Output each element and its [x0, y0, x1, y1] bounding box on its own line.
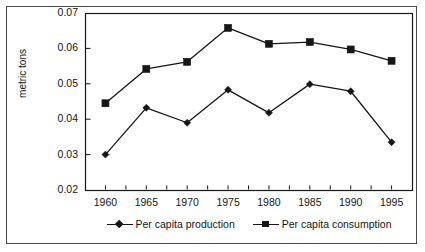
screenshot-root: metric tons 0.020.030.040.050.060.07 196…	[0, 0, 425, 252]
line-chart: metric tons 0.020.030.040.050.060.07 196…	[0, 0, 425, 252]
data-series-group	[102, 24, 395, 158]
legend-item-consumption[interactable]: Per capita consumption	[253, 218, 392, 230]
chart-legend: Per capita production Per capita consump…	[85, 218, 413, 230]
y-axis-ticks	[86, 48, 91, 154]
diamond-marker-icon	[107, 219, 133, 229]
series-production	[102, 81, 395, 158]
plot-area	[0, 0, 425, 252]
legend-item-production[interactable]: Per capita production	[107, 218, 235, 230]
legend-label-consumption: Per capita consumption	[282, 218, 392, 230]
square-marker-icon	[253, 219, 279, 229]
x-axis-ticks	[105, 186, 391, 190]
legend-label-production: Per capita production	[136, 218, 235, 230]
